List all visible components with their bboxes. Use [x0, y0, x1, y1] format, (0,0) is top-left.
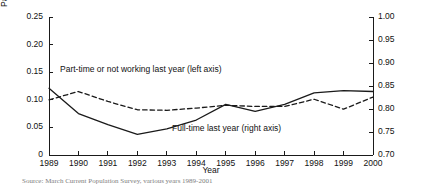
series-annotation-full-time: Full-time last year (right axis): [172, 123, 281, 133]
y-tick-left-3: 0.15: [13, 66, 43, 76]
y-tick-left-5: 0.25: [13, 11, 43, 21]
series-annotation-part-time: Part-time or not working last year (left…: [60, 64, 222, 74]
y-tick-left-1: 0.05: [13, 121, 43, 131]
y-tick-right-4: 0.90: [378, 57, 408, 67]
chart-figure: Part-time or not working Full-time Year …: [0, 0, 422, 187]
y-tick-right-1: 0.75: [378, 126, 408, 136]
y-tick-left-2: 0.10: [13, 94, 43, 104]
y-tick-right-3: 0.85: [378, 80, 408, 90]
y-tick-right-2: 0.80: [378, 103, 408, 113]
y-tick-right-5: 0.95: [378, 34, 408, 44]
source-note: Source: March Current Population Survey,…: [22, 177, 422, 185]
y-tick-left-4: 0.20: [13, 39, 43, 49]
y-tick-right-6: 1.00: [378, 11, 408, 21]
x-tick-2000: 2000: [356, 158, 390, 168]
